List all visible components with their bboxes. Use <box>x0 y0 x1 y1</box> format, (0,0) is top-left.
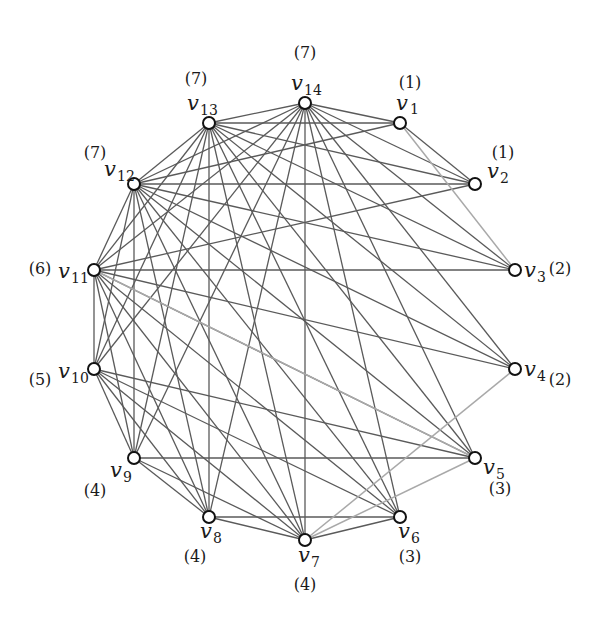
vertex-weight-v2: (1) <box>492 143 515 162</box>
edge-v7-v13 <box>209 123 305 540</box>
vertex-weight-v1: (1) <box>399 73 422 92</box>
vertex-v5 <box>469 452 481 464</box>
vertex-subscript-v9: 9 <box>123 469 132 485</box>
vertex-weight-v10: (5) <box>29 370 52 389</box>
vertex-weight-v7: (4) <box>294 575 317 594</box>
vertex-subscript-v8: 8 <box>213 530 222 546</box>
vertex-v1 <box>394 117 406 129</box>
edge-layer <box>94 103 515 540</box>
edge-v10-v12 <box>94 184 134 369</box>
edge-v4-v13 <box>209 123 515 369</box>
vertex-weight-v11: (6) <box>29 259 52 278</box>
edge-v3-v14 <box>305 103 515 270</box>
vertex-subscript-v14: 14 <box>304 82 322 98</box>
vertex-weight-v14: (7) <box>294 43 317 62</box>
edge-v7-v10 <box>94 369 305 540</box>
edge-v6-v10 <box>94 369 400 517</box>
edge-v4-v12 <box>134 184 515 369</box>
vertex-label-v4: v <box>524 357 536 381</box>
vertex-label-v13: v <box>187 91 199 115</box>
vertex-label-v3: v <box>524 258 536 282</box>
edge-v11-v14 <box>94 103 305 270</box>
vertex-weight-v5: (3) <box>489 479 512 498</box>
vertex-subscript-v11: 11 <box>71 270 89 286</box>
edge-v4-v14 <box>305 103 515 369</box>
edge-v13-v14 <box>209 103 305 123</box>
vertex-v3 <box>509 264 521 276</box>
edge-v9-v14 <box>134 103 305 458</box>
vertex-weight-v6: (3) <box>399 547 422 566</box>
vertex-v4 <box>509 363 521 375</box>
edge-v6-v14 <box>305 103 400 517</box>
vertex-subscript-v13: 13 <box>200 102 218 118</box>
vertex-label-v5: v <box>483 455 495 479</box>
vertex-subscript-v2: 2 <box>500 170 509 186</box>
vertex-subscript-v6: 6 <box>411 530 420 546</box>
edge-v2-v14 <box>305 103 475 184</box>
vertex-label-v6: v <box>398 519 410 543</box>
vertex-subscript-v10: 10 <box>71 370 89 386</box>
edge-v5-v14 <box>305 103 475 458</box>
edge-v3-v13 <box>209 123 515 270</box>
vertex-weight-v9: (4) <box>84 481 107 500</box>
vertex-label-v7: v <box>298 543 310 567</box>
vertex-label-v9: v <box>110 458 122 482</box>
vertex-label-v14: v <box>291 71 303 95</box>
vertex-v11 <box>88 264 100 276</box>
vertex-v14 <box>299 97 311 109</box>
edge-v6-v12 <box>134 184 400 517</box>
vertex-weight-v3: (2) <box>549 259 572 278</box>
vertex-subscript-v3: 3 <box>537 269 546 285</box>
vertex-weight-v13: (7) <box>185 69 208 88</box>
vertex-v9 <box>128 452 140 464</box>
vertex-weight-v8: (4) <box>184 547 207 566</box>
edge-v1-v12 <box>134 123 400 184</box>
vertex-v2 <box>469 178 481 190</box>
graph-diagram: v1(1)v2(1)v3(2)v4(2)v5(3)v6(3)v7(4)v8(4)… <box>0 0 607 624</box>
vertex-label-v1: v <box>396 91 408 115</box>
vertex-label-v8: v <box>200 519 212 543</box>
vertex-weight-v12: (7) <box>84 143 107 162</box>
edge-v9-v13 <box>134 123 209 458</box>
edge-v11-v5 <box>94 270 475 458</box>
vertex-label-v10: v <box>58 359 70 383</box>
vertex-weight-v4: (2) <box>549 370 572 389</box>
vertex-subscript-v12: 12 <box>117 168 135 184</box>
vertex-label-v2: v <box>487 159 499 183</box>
edge-v1-v14 <box>305 103 400 123</box>
vertex-v13 <box>203 117 215 129</box>
vertex-subscript-v4: 4 <box>537 368 546 384</box>
vertex-subscript-v1: 1 <box>410 101 419 117</box>
vertex-v10 <box>88 363 100 375</box>
edge-v6-v11 <box>94 270 400 517</box>
vertex-label-v11: v <box>58 259 70 283</box>
vertex-subscript-v7: 7 <box>311 554 320 570</box>
